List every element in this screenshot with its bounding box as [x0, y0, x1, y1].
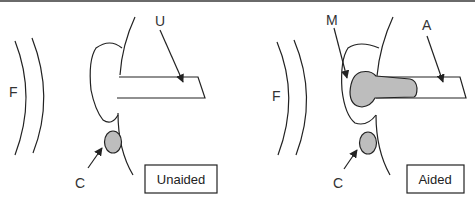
arrow-u	[160, 30, 183, 82]
sound-wave-arc	[294, 40, 307, 155]
arrow-c	[88, 148, 102, 168]
label-c: C	[75, 175, 85, 191]
arrow-a	[427, 36, 443, 82]
panel-aided	[277, 17, 466, 193]
label-f: F	[9, 84, 18, 100]
head-contour	[377, 17, 393, 76]
auricle	[90, 43, 122, 122]
label-f: F	[272, 88, 281, 104]
cartilage-c	[360, 132, 377, 154]
ear-canal	[117, 77, 205, 98]
label-u: U	[155, 13, 165, 29]
ear-diagram: F U C Unaided F M A C Aided	[0, 0, 475, 202]
head-contour	[120, 17, 135, 75]
panel-unaided	[15, 17, 217, 193]
caption-unaided: Unaided	[157, 172, 205, 187]
head-contour	[376, 115, 390, 175]
arrow-c	[344, 150, 357, 169]
sound-wave-arc	[32, 38, 44, 153]
caption-aided: Aided	[418, 172, 451, 187]
label-m: M	[326, 12, 338, 28]
label-c: C	[333, 175, 343, 191]
label-a: A	[422, 17, 432, 33]
cartilage-c	[105, 131, 122, 153]
